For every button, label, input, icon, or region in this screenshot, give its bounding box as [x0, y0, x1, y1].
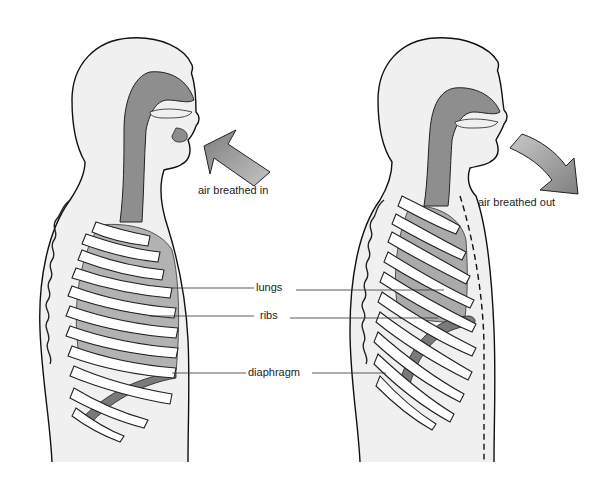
label-air-breathed-in: air breathed in	[198, 184, 268, 196]
label-diaphragm: diaphragm	[248, 366, 300, 378]
exhale-arrow	[510, 134, 578, 194]
figure-exhale	[350, 38, 578, 462]
label-air-breathed-out: air breathed out	[478, 196, 555, 208]
figure-inhale	[40, 38, 270, 462]
diagram-drawing	[0, 0, 589, 483]
inhale-arrow	[204, 130, 270, 186]
label-lungs: lungs	[256, 281, 282, 293]
breathing-diagram: air breathed in air breathed out lungs r…	[0, 0, 589, 483]
label-ribs: ribs	[260, 309, 278, 321]
